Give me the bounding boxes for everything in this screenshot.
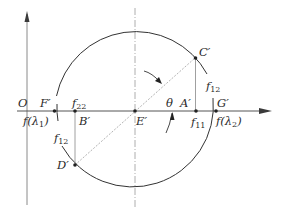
label-G: G′	[217, 96, 229, 110]
point-F	[53, 109, 57, 113]
label-theta: θ	[166, 96, 173, 110]
label-A: A′	[179, 96, 191, 110]
circle-tick-at-F	[57, 104, 58, 121]
rotation-arrow-lower-icon	[166, 113, 172, 133]
circle-upper-arc	[57, 32, 208, 96]
label-f-lambda2: f(λ2)	[215, 114, 242, 129]
label-f12-bottom: f12	[53, 131, 68, 146]
label-f22: f22	[71, 96, 86, 111]
label-f12-top: f12	[205, 79, 220, 94]
rotation-arrowhead-lower-icon	[170, 112, 175, 120]
label-origin: O	[18, 96, 28, 110]
label-D: D′	[56, 158, 69, 172]
label-E: E′	[135, 114, 147, 128]
label-f11: f11	[190, 115, 205, 130]
point-A	[194, 109, 198, 113]
point-E	[133, 109, 137, 113]
label-F: F′	[39, 96, 51, 110]
point-D	[73, 163, 77, 167]
point-C	[194, 56, 198, 60]
label-B: B′	[78, 114, 90, 128]
label-f-lambda1: f(λ1)	[22, 114, 49, 129]
vertical-axis-arrow-icon	[25, 11, 30, 22]
label-C: C′	[199, 45, 211, 59]
mohr-circle-diagram: O F′ B′ E′ A′ G′ C′ D′ θ f22 f11 f12 f12…	[0, 0, 285, 215]
horizontal-axis-arrow-icon	[259, 108, 272, 114]
